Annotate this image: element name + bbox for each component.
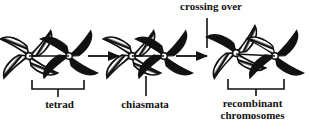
label-recombinant-line2: chromosomes bbox=[196, 109, 309, 121]
centromere bbox=[233, 50, 240, 57]
stage-recombinant bbox=[207, 26, 304, 96]
stage-tetrad bbox=[0, 31, 98, 97]
label-chiasmata: chiasmata bbox=[92, 98, 198, 110]
crossing-over-diagram: tetrad chiasmata crossing over recombina… bbox=[0, 0, 309, 129]
recombinant-connector bbox=[236, 54, 275, 56]
stage-chiasmata bbox=[103, 31, 193, 96]
tetrad-bracket bbox=[32, 80, 84, 89]
label-recombinant-line1: recombinant bbox=[223, 97, 283, 109]
label-crossing-over: crossing over bbox=[150, 0, 272, 12]
recombinant-bracket bbox=[228, 79, 284, 89]
label-recombinant-chromosomes: recombinant chromosomes bbox=[196, 97, 309, 122]
